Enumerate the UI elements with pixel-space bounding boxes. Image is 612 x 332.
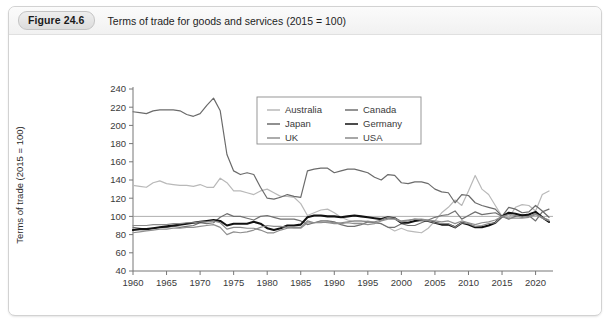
chart-legend[interactable]: AustraliaCanadaJapanGermanyUKUSA — [257, 97, 421, 144]
svg-text:2000: 2000 — [391, 277, 412, 288]
svg-text:1965: 1965 — [156, 277, 177, 288]
svg-text:100: 100 — [110, 211, 126, 222]
legend-label-uk[interactable]: UK — [285, 132, 299, 143]
legend-label-japan[interactable]: Japan — [285, 118, 311, 129]
svg-text:40: 40 — [115, 265, 126, 276]
figure-panel: Figure 24.6 Terms of trade for goods and… — [8, 6, 602, 316]
y-axis-title: Terms of trade (2015 = 100) — [14, 126, 25, 244]
legend-label-germany[interactable]: Germany — [363, 118, 402, 129]
svg-text:1970: 1970 — [190, 277, 211, 288]
svg-text:80: 80 — [115, 229, 126, 240]
svg-text:160: 160 — [110, 156, 126, 167]
legend-label-australia[interactable]: Australia — [285, 104, 323, 115]
svg-text:1980: 1980 — [257, 277, 278, 288]
svg-text:1985: 1985 — [290, 277, 311, 288]
figure-number-badge: Figure 24.6 — [18, 11, 95, 31]
svg-text:1990: 1990 — [324, 277, 345, 288]
svg-text:2010: 2010 — [458, 277, 479, 288]
svg-text:140: 140 — [110, 174, 126, 185]
svg-text:Terms of trade (2015 = 100): Terms of trade (2015 = 100) — [14, 126, 25, 244]
svg-text:240: 240 — [110, 83, 126, 94]
svg-text:200: 200 — [110, 120, 126, 131]
svg-text:220: 220 — [110, 102, 126, 113]
svg-text:2015: 2015 — [491, 277, 512, 288]
svg-text:1960: 1960 — [122, 277, 143, 288]
legend-label-usa[interactable]: USA — [363, 132, 383, 143]
source-note — [10, 318, 310, 328]
svg-text:60: 60 — [115, 247, 126, 258]
svg-text:180: 180 — [110, 138, 126, 149]
legend-label-canada[interactable]: Canada — [363, 104, 397, 115]
figure-header: Figure 24.6 Terms of trade for goods and… — [9, 7, 601, 35]
svg-text:2020: 2020 — [525, 277, 546, 288]
svg-text:2005: 2005 — [424, 277, 445, 288]
y-axis-ticks: 406080100120140160180200220240 — [110, 83, 133, 276]
svg-text:120: 120 — [110, 193, 126, 204]
figure-caption-title: Terms of trade for goods and services (2… — [108, 15, 346, 27]
svg-text:1995: 1995 — [357, 277, 378, 288]
terms-of-trade-line-chart: Terms of trade (2015 = 100) 406080100120… — [9, 35, 601, 314]
chart-plot-area: Terms of trade (2015 = 100) 406080100120… — [9, 35, 601, 314]
svg-text:1975: 1975 — [223, 277, 244, 288]
x-axis-ticks: 1960196519701975198019851990199520002005… — [122, 271, 546, 288]
